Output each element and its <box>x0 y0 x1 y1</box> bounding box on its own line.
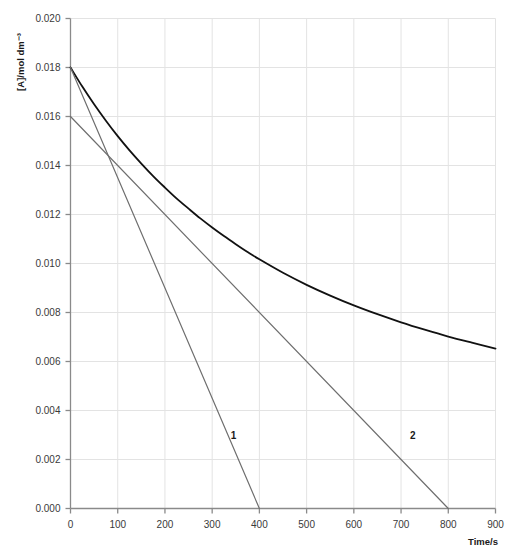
x-tick-label: 900 <box>487 519 504 530</box>
x-tick-label: 800 <box>440 519 457 530</box>
y-tick-label: 0.012 <box>35 209 60 220</box>
x-tick-label: 700 <box>393 519 410 530</box>
x-tick-label: 600 <box>345 519 362 530</box>
x-tick-label: 400 <box>251 519 268 530</box>
axis-ticks <box>66 19 496 514</box>
series-concentration-curve <box>71 68 496 349</box>
y-axis-title: [A]/mol dm⁻³ <box>15 33 26 91</box>
y-tick-label: 0.002 <box>35 454 60 465</box>
y-tick-label: 0.018 <box>35 62 60 73</box>
y-tick-label: 0.014 <box>35 160 60 171</box>
x-axis-title: Time/s <box>468 536 498 547</box>
y-tick-labels: 0.0000.0020.0040.0060.0080.0100.0120.014… <box>35 13 60 514</box>
y-tick-label: 0.006 <box>35 356 60 367</box>
y-tick-label: 0.020 <box>35 13 60 24</box>
y-tick-label: 0.016 <box>35 111 60 122</box>
y-tick-label: 0.008 <box>35 307 60 318</box>
grid-lines <box>71 19 496 509</box>
chart-figure: 0100200300400500600700800900 0.0000.0020… <box>0 0 520 559</box>
series-annotation-1: 1 <box>231 430 237 441</box>
series-annotation-2: 2 <box>410 430 416 441</box>
series-annotations: 12 <box>231 430 416 441</box>
data-series <box>71 68 496 509</box>
y-tick-label: 0.000 <box>35 503 60 514</box>
x-tick-label: 300 <box>204 519 221 530</box>
x-tick-labels: 0100200300400500600700800900 <box>68 519 505 530</box>
x-tick-label: 500 <box>298 519 315 530</box>
x-tick-label: 200 <box>157 519 174 530</box>
y-tick-label: 0.010 <box>35 258 60 269</box>
chart-canvas: 0100200300400500600700800900 0.0000.0020… <box>0 0 520 559</box>
y-tick-label: 0.004 <box>35 405 60 416</box>
x-tick-label: 0 <box>68 519 74 530</box>
x-tick-label: 100 <box>109 519 126 530</box>
